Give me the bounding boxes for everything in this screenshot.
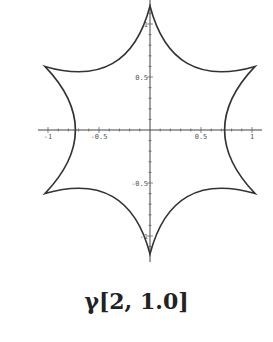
x-tick-label: 1 <box>250 133 254 141</box>
x-tick-label: 0.5 <box>195 133 208 141</box>
y-tick-label: 0.5 <box>135 74 148 82</box>
figure-caption: γ[2, 1.0] <box>0 288 273 314</box>
x-tick-label: -0.5 <box>91 133 108 141</box>
y-tick-label: -0.5 <box>131 180 148 188</box>
plot-area: -1-0.50.51 -1-0.50.51 <box>0 0 273 280</box>
x-tick-label: -1 <box>44 133 52 141</box>
